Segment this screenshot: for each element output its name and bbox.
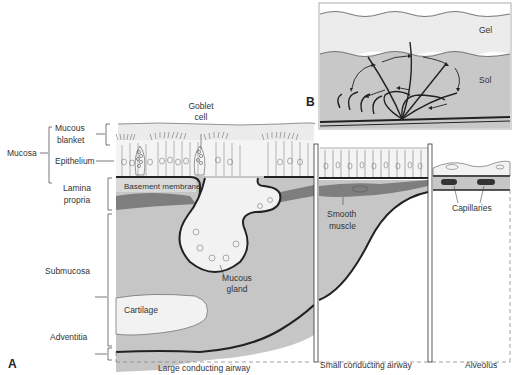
capillaries-label: Capillaries [452, 203, 492, 213]
epithelium-label: Epithelium [55, 156, 95, 166]
panel-b-letter: B [306, 95, 315, 109]
submucosa-label: Submucosa [45, 266, 90, 276]
large-airway-section [116, 123, 315, 372]
smooth-muscle-label-line1: Smooth [327, 209, 356, 219]
goblet-cell-label-line1: Goblet [186, 101, 216, 111]
basement-membrane-label: Basement membrane [124, 182, 200, 192]
lamina-propria-label-line2: propria [60, 195, 94, 205]
goblet-cell-label-line2: cell [186, 112, 216, 122]
alveolus-section [432, 161, 510, 362]
smooth-muscle-label-line2: muscle [329, 221, 356, 231]
mucous-gland-label-line2: gland [222, 284, 252, 294]
mucous-gland-label-line1: Mucous [222, 273, 252, 283]
mucosa-label: Mucosa [7, 148, 37, 158]
cartilage-label: Cartilage [124, 305, 158, 315]
adventitia-label: Adventitia [50, 332, 87, 342]
mucous-blanket-label-line1: Mucous [55, 123, 85, 133]
caption-alveolus: Alveolus [465, 360, 497, 370]
mucous-blanket-label-line2: blanket [57, 135, 84, 145]
caption-small-airway: Small conducting airway [320, 360, 412, 370]
panel-b-cilia-inset [319, 3, 511, 129]
small-airway-section [314, 144, 432, 362]
sol-label: Sol [479, 75, 491, 85]
lamina-propria-label-line1: Lamina [60, 183, 94, 193]
caption-large-airway: Large conducting airway [158, 363, 250, 373]
panel-a-letter: A [8, 357, 17, 371]
gel-label: Gel [479, 25, 492, 35]
